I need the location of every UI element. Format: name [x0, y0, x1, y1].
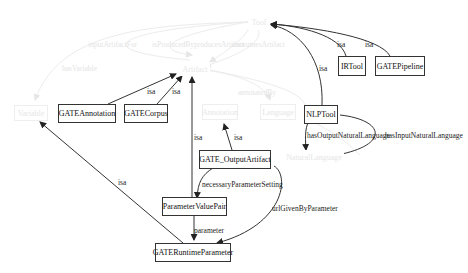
node-gate-annotation[interactable]: GATEAnnotation [58, 104, 116, 123]
edge-label-url-given-by-parameter: urlGivenByParameter [272, 204, 338, 213]
node-parameter-value-pair[interactable]: ParameterValuePair [162, 197, 227, 216]
diagram-canvas: Tool Artifact Variable Annotation Langua… [0, 0, 468, 273]
edge-label-is-produced-by: isProducedBy [152, 40, 194, 49]
node-language[interactable]: Language [260, 104, 296, 120]
node-gate-pipeline[interactable]: GATEPipeline [375, 56, 425, 76]
edge-label-isa-irtool: isa [337, 40, 345, 49]
edge-label-necessary-parameter-setting: necessaryParameterSetting [202, 180, 283, 189]
edge-label-isa-output: isa [234, 133, 242, 142]
edge-label-annotated-by: annotatedBy [238, 88, 276, 97]
node-gate-output-artifact[interactable]: GATE_OutputArtifact [199, 150, 271, 169]
edge-label-isa-annotation: isa [147, 87, 155, 96]
node-natural-language[interactable]: NaturalLanguage [284, 150, 344, 164]
edge-label-input-artifact-for: inputArtifactFor [88, 40, 137, 49]
edge-label-isa-corpus: isa [172, 87, 180, 96]
edge-label-isa-runtime: isa [118, 178, 126, 187]
edge-label-has-variable: hasVariable [62, 64, 97, 73]
edge-label-isa-pipeline: isa [365, 40, 373, 49]
node-annotation[interactable]: Annotation [202, 104, 238, 120]
node-tool[interactable]: Tool [248, 14, 270, 30]
node-nlp-tool[interactable]: NLPTool [304, 105, 338, 124]
node-gate-runtime-parameter[interactable]: GATERuntimeParameter [155, 243, 231, 262]
edge-label-isa-nlptool: isa [319, 64, 327, 73]
node-ir-tool[interactable]: IRTool [338, 56, 366, 76]
edge-label-has-output-natural-language: hasOutputNaturalLanguage [307, 131, 390, 140]
edge-label-consumes-artifact: consumesArtifact [232, 40, 285, 49]
node-artifact[interactable]: Artifact [180, 62, 210, 76]
edge-label-parameter: parameter [194, 226, 224, 235]
edge-label-has-input-natural-language: hasInputNaturalLanguage [385, 131, 463, 140]
node-gate-corpus[interactable]: GATECorpus [124, 104, 168, 123]
node-variable[interactable]: Variable [14, 105, 48, 121]
edge-label-isa-pvp: isa [194, 133, 202, 142]
